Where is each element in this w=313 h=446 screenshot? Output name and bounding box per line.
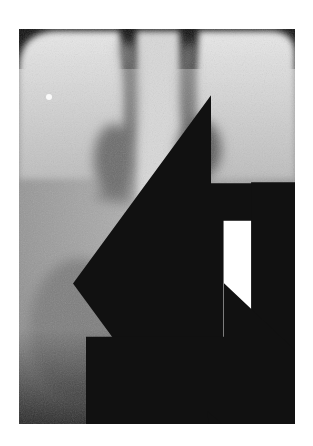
radiograph-film [19,29,295,424]
arrow-lower-right-icon [178,332,295,424]
